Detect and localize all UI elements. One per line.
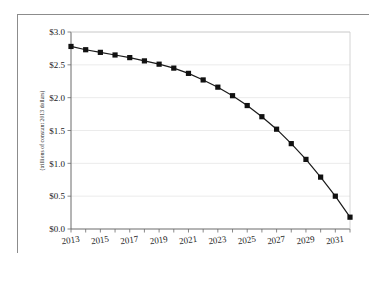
data-point-marker — [347, 215, 352, 220]
data-point-marker — [157, 62, 162, 67]
data-point-marker — [186, 71, 191, 76]
data-point-marker — [259, 114, 264, 119]
chart-plot-area: $0.0$0.5$1.0$1.5$2.0$2.5$3.0 20132015201… — [18, 15, 370, 254]
data-point-marker — [83, 47, 88, 52]
y-tick-label: $1.0 — [49, 159, 65, 169]
data-point-marker — [112, 52, 117, 57]
data-point-marker — [230, 93, 235, 98]
data-point-marker — [245, 103, 250, 108]
data-point-marker — [289, 141, 294, 146]
y-tick-label: $3.0 — [49, 27, 65, 37]
data-point-marker — [274, 127, 279, 132]
data-point-marker — [303, 157, 308, 162]
data-point-marker — [127, 55, 132, 60]
data-point-marker — [98, 50, 103, 55]
data-point-marker — [333, 194, 338, 199]
y-axis-title-text: (trillions of constant 2013 dollars) — [39, 90, 46, 170]
y-tick-label: $1.5 — [49, 126, 65, 136]
y-tick-label: $2.5 — [49, 60, 65, 70]
data-point-marker — [215, 85, 220, 90]
data-point-marker — [171, 66, 176, 71]
data-point-marker — [201, 77, 206, 82]
data-point-marker — [318, 175, 323, 180]
line-chart-svg: $0.0$0.5$1.0$1.5$2.0$2.5$3.0 20132015201… — [18, 15, 370, 254]
data-point-marker — [142, 58, 147, 63]
y-tick-label: $2.0 — [49, 93, 65, 103]
data-point-marker — [68, 44, 73, 49]
y-tick-label: $0.0 — [49, 224, 65, 234]
figure-frame: $0.0$0.5$1.0$1.5$2.0$2.5$3.0 20132015201… — [17, 14, 369, 253]
y-tick-label: $0.5 — [49, 191, 65, 201]
y-axis-title: (trillions of constant 2013 dollars) — [39, 90, 46, 170]
